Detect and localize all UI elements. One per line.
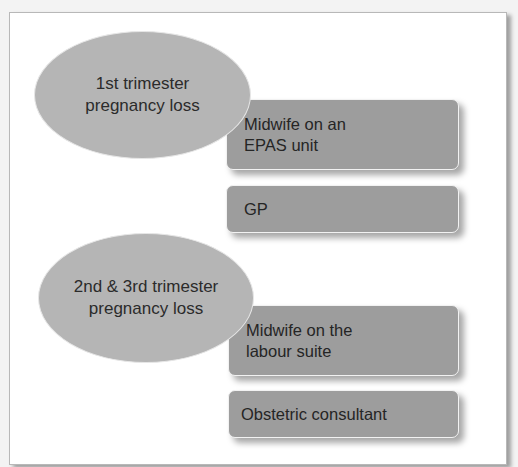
category-label-line1: 2nd & 3rd trimester bbox=[74, 276, 219, 298]
provider-label: Obstetric consultant bbox=[241, 404, 387, 425]
provider-box-midwife-epas: Midwife on an EPAS unit bbox=[226, 99, 459, 170]
provider-box-midwife-labour: Midwife on the labour suite bbox=[228, 305, 459, 376]
provider-label-line1: Midwife on an bbox=[244, 114, 346, 135]
provider-label-line2: EPAS unit bbox=[244, 135, 346, 156]
provider-label: GP bbox=[244, 199, 268, 220]
provider-box-gp: GP bbox=[226, 185, 459, 233]
category-label-line2: pregnancy loss bbox=[74, 298, 219, 320]
provider-box-obstetric-consultant: Obstetric consultant bbox=[228, 390, 459, 438]
category-label-line2: pregnancy loss bbox=[85, 95, 199, 117]
category-ellipse-1st-trimester: 1st trimester pregnancy loss bbox=[34, 31, 251, 159]
category-ellipse-2nd-3rd-trimester: 2nd & 3rd trimester pregnancy loss bbox=[38, 233, 254, 363]
provider-label-line1: Midwife on the bbox=[246, 320, 352, 341]
provider-label-line2: labour suite bbox=[246, 341, 352, 362]
category-label-line1: 1st trimester bbox=[85, 73, 199, 95]
